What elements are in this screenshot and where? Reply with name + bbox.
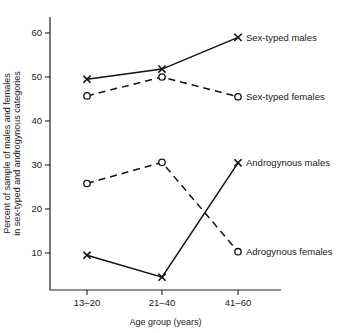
x-axis-title: Age group (years) — [129, 317, 201, 327]
y-axis-tick-label: 20 — [31, 203, 42, 214]
series-line-0 — [87, 37, 238, 79]
y-axis-tick-label: 10 — [31, 247, 42, 258]
series-line-2 — [87, 163, 238, 277]
series-line-3 — [87, 162, 238, 251]
series-label-0: Sex-typed males — [246, 32, 317, 43]
data-point-marker-circle — [84, 180, 90, 186]
x-axis-tick-label: 13–20 — [74, 297, 100, 308]
data-point-marker-circle — [159, 74, 165, 80]
y-axis-title-line2: in sex-typed and androgynous categories — [12, 71, 22, 236]
data-point-marker-circle — [84, 93, 90, 99]
x-axis-tick-label: 21–40 — [149, 297, 175, 308]
series-label-3: Adrogynous females — [246, 246, 333, 257]
y-axis-tick-label: 60 — [31, 27, 42, 38]
series-label-1: Sex-typed females — [246, 91, 325, 102]
y-axis-tick-label: 50 — [31, 71, 42, 82]
y-axis-tick-label: 40 — [31, 115, 42, 126]
chart-figure: 10203040506013–2021–4041–60Age group (ye… — [0, 0, 344, 333]
data-point-marker-circle — [235, 248, 241, 254]
y-axis-tick-label: 30 — [31, 159, 42, 170]
line-chart: 10203040506013–2021–4041–60Age group (ye… — [0, 0, 344, 333]
series-label-2: Androgynous males — [246, 157, 330, 168]
x-axis-tick-label: 41–60 — [225, 297, 251, 308]
y-axis-title-line1: Percent of sample of males and females — [2, 73, 12, 234]
data-point-marker-circle — [159, 159, 165, 165]
data-point-marker-circle — [235, 94, 241, 100]
